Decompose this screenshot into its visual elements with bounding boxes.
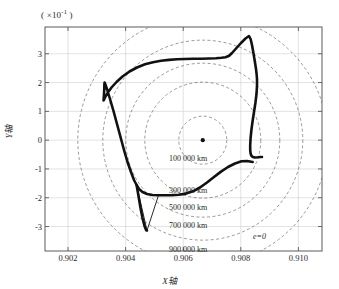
range-ring-label: 100 000 km	[169, 154, 207, 163]
y-tick-label: -2	[35, 193, 42, 203]
y-tick-label: -1	[35, 164, 42, 174]
range-ring-label: 300 000 km	[169, 186, 207, 195]
y-axis-title: Y轴	[2, 112, 15, 152]
y-tick-label: 2	[38, 78, 42, 88]
x-tick-label: 0.904	[116, 253, 135, 263]
central-body-marker	[201, 138, 205, 142]
y-axis-exponent-note: ( ×10-1 )	[41, 8, 73, 20]
y-tick-label: -3	[35, 222, 42, 232]
range-ring-label: 700 000 km	[169, 221, 207, 230]
x-tick-label: 0.908	[231, 253, 250, 263]
x-tick-label: 0.906	[174, 253, 193, 263]
range-ring-label: 500 000 km	[169, 203, 207, 212]
polar-trajectory-figure: ( ×10-1 ) 0.9020.9040.9060.9080.910 3210…	[0, 0, 339, 289]
y-tick-label: 3	[38, 49, 42, 59]
eccentricity-annotation: e=0	[253, 232, 266, 241]
y-tick-label: 0	[38, 135, 42, 145]
x-tick-label: 0.910	[289, 253, 308, 263]
x-axis-title: X轴	[0, 274, 339, 287]
x-tick-label: 0.902	[58, 253, 77, 263]
range-ring-label: 900 000 km	[169, 245, 207, 254]
y-tick-label: 1	[38, 106, 42, 116]
